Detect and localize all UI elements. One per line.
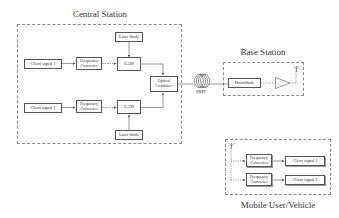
frequency-converter-box-mobile-1: Frequency Converter bbox=[246, 154, 272, 167]
photodiode-box: Photodiode bbox=[228, 78, 261, 88]
optical-combiner-box: Optical Combiner bbox=[150, 76, 178, 92]
eam-box-bottom: EAM bbox=[117, 100, 141, 114]
amplifier-triangle-icon bbox=[275, 77, 291, 89]
laser-diode-box-top: Laser diode bbox=[115, 32, 143, 42]
smf-label: SMF bbox=[196, 89, 206, 94]
client-signal-box-mobile-1: Client signal 1 bbox=[285, 156, 325, 166]
antenna-icon bbox=[228, 142, 235, 149]
frequency-converter-box-bottom: Frequency Converter bbox=[76, 100, 102, 113]
fiber-coil-icon bbox=[193, 73, 211, 89]
laser-diode-box-bottom: Laser diode bbox=[115, 130, 143, 140]
frequency-converter-box-top: Frequency Converter bbox=[76, 57, 102, 70]
eam-box-top: EAM bbox=[117, 57, 141, 71]
client-signal-box-mobile-2: Client signal 2 bbox=[285, 175, 325, 185]
client-signal-box-top: Client signal 1 bbox=[24, 59, 62, 69]
client-signal-box-bottom: Client signal 1 bbox=[24, 103, 62, 113]
frequency-converter-box-mobile-2: Frequency Converter bbox=[246, 173, 272, 186]
antenna-icon bbox=[293, 65, 300, 72]
